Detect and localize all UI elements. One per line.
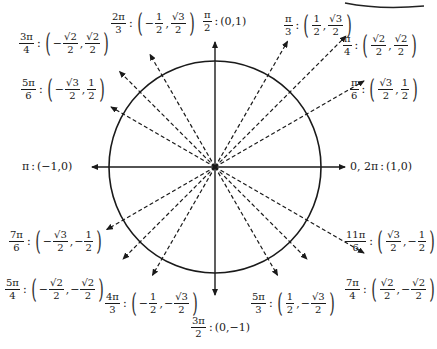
x-coordinate: √22: [371, 34, 386, 57]
x-sign: −: [145, 18, 154, 29]
label-seven-pi-over-4: 7π4:(√22,−√22): [344, 276, 437, 302]
ray-5pi-over-6: [111, 107, 215, 167]
label-3pi-over-2: 3π2 :(0,−1): [190, 316, 250, 339]
angle-fraction: π6: [350, 78, 359, 101]
corner-arc: [345, 3, 424, 7]
label-eleven-pi-over-6: 11π6:(√32,−12): [344, 228, 437, 254]
x-coordinate: √32: [386, 230, 401, 253]
y-coordinate: √22: [394, 34, 409, 57]
label-zero: 0, 2π:(1,0): [350, 161, 412, 172]
angle-fraction: 7π6: [9, 230, 24, 253]
ray-11pi-over-6: [215, 167, 364, 253]
label-five-pi-over-4: 5π4:(−√22,−√22): [4, 276, 106, 302]
ray-5pi-over-3: [215, 167, 278, 275]
y-coordinate: √22: [85, 32, 100, 55]
ray-7pi-over-4: [215, 167, 307, 259]
label-pi-over-4: π4:(√22,√22): [342, 32, 420, 58]
y-coordinate: 12: [87, 78, 95, 101]
y-coordinate: 12: [418, 230, 426, 253]
label-four-pi-over-3: 4π3:(−12,−√32): [104, 290, 200, 316]
ray-pi-over-3: [215, 41, 288, 167]
y-sign: −: [74, 236, 83, 247]
origin-dot: [213, 165, 218, 170]
angle-rays: [107, 36, 364, 275]
x-coordinate: 12: [149, 292, 157, 315]
label-pi: π:(−1,0): [22, 161, 72, 172]
ray-pi-over-6: [215, 81, 364, 167]
angle-fraction: 11π6: [345, 230, 366, 253]
y-coordinate: 12: [84, 230, 92, 253]
x-sign: −: [39, 284, 48, 295]
ray-4pi-over-3: [153, 167, 216, 275]
label-seven-pi-over-6: 7π6:(−√32,−12): [8, 228, 104, 254]
label-three-pi-over-4: 3π4:(−√22,√22): [18, 30, 111, 56]
y-coordinate: √32: [328, 14, 343, 37]
x-coordinate: √22: [49, 278, 64, 301]
angle-fraction: π3: [284, 14, 293, 37]
label-five-pi-over-3: 5π3:(12,−√32): [250, 290, 337, 316]
y-sign: −: [164, 298, 173, 309]
y-coordinate: √32: [311, 292, 326, 315]
angle-fraction: 5π4: [5, 278, 20, 301]
x-coordinate: √22: [63, 32, 78, 55]
x-sign: −: [139, 298, 148, 309]
angle-fraction: 2π3: [111, 12, 126, 35]
x-coordinate: 12: [155, 12, 163, 35]
y-coordinate: √22: [411, 278, 426, 301]
y-coordinate: √22: [80, 278, 95, 301]
ray-3pi-over-4: [120, 72, 215, 167]
y-coordinate: √32: [171, 12, 186, 35]
y-sign: −: [70, 284, 79, 295]
y-coordinate: 12: [401, 78, 409, 101]
angle-fraction: π4: [343, 34, 352, 57]
x-coordinate: √32: [378, 78, 393, 101]
x-coordinate: √32: [65, 78, 80, 101]
angle-fraction: 7π4: [345, 278, 360, 301]
label-pi-over-6: π6:(√32,12): [349, 76, 420, 102]
y-sign: −: [407, 236, 416, 247]
y-sign: −: [401, 284, 410, 295]
x-coordinate: 12: [312, 14, 320, 37]
angle-fraction: 4π3: [105, 292, 120, 315]
x-sign: −: [53, 38, 62, 49]
x-coordinate: √22: [380, 278, 395, 301]
ray-5pi-over-4: [123, 167, 215, 259]
angle-fraction: 5π6: [21, 78, 36, 101]
ray-pi-over-4: [215, 36, 346, 167]
y-sign: −: [301, 298, 310, 309]
label-pi-over-2: π2 :(0,1): [202, 10, 246, 33]
label-five-pi-over-6: 5π6:(−√32,12): [20, 76, 107, 102]
x-coordinate: √32: [53, 230, 68, 253]
label-two-pi-over-3: 2π3:(−12,√32): [110, 10, 197, 36]
angle-fraction: 3π4: [19, 32, 34, 55]
y-coordinate: √32: [174, 292, 189, 315]
angle-fraction: 5π3: [251, 292, 266, 315]
x-sign: −: [55, 84, 64, 95]
x-sign: −: [43, 236, 52, 247]
ray-7pi-over-6: [107, 167, 215, 230]
x-coordinate: 12: [286, 292, 294, 315]
ray-2pi-over-3: [150, 54, 215, 167]
